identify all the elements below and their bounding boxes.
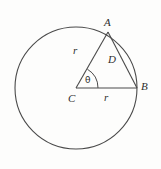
geometry-figure: A B C D r r θ (0, 0, 161, 169)
label-radius-lower: r (104, 92, 108, 103)
label-radius-upper: r (73, 45, 77, 56)
label-center-c: C (68, 93, 75, 104)
label-point-b: B (141, 81, 148, 92)
radius-line-ca (76, 32, 108, 88)
geometry-canvas (0, 0, 161, 169)
label-chord-d: D (108, 54, 116, 65)
label-point-a: A (104, 17, 111, 28)
label-angle-theta: θ (85, 76, 91, 85)
